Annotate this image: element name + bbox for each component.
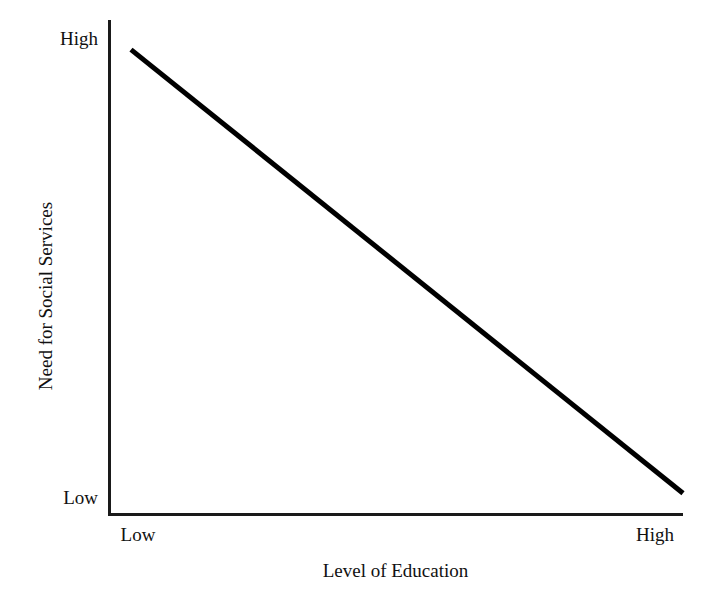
x-axis-tick-high: High: [625, 524, 685, 546]
y-axis-tick-high: High: [48, 28, 98, 50]
x-axis-title: Level of Education: [108, 560, 683, 582]
chart-figure: High Low Low High Need for Social Servic…: [0, 0, 716, 597]
x-axis-tick-low: Low: [108, 524, 168, 546]
trend-line-segment: [131, 50, 683, 494]
y-axis-tick-low: Low: [48, 487, 98, 509]
y-axis-title: Need for Social Services: [35, 166, 57, 426]
plot-area: High Low Low High Need for Social Servic…: [0, 0, 716, 597]
data-line: [0, 0, 716, 597]
